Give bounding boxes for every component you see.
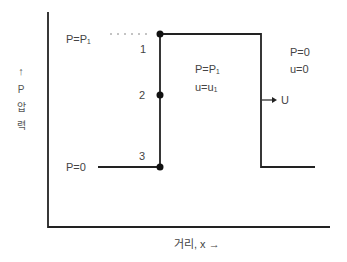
point-2-dot xyxy=(157,92,164,99)
pressure-profile-diagram xyxy=(0,0,347,262)
inside-pressure-label: P=P₁ xyxy=(195,64,220,75)
y-axis-label-char-2: 력 xyxy=(14,121,28,131)
ahead-pressure-label: P=0 xyxy=(290,47,310,58)
low-level-label: P=0 xyxy=(66,162,86,173)
high-level-label: P=P₁ xyxy=(66,34,91,45)
point-3-dot xyxy=(157,164,164,171)
inside-velocity-label: u=u₁ xyxy=(195,82,217,93)
x-axis-label: 거리, x → xyxy=(174,239,220,250)
front-velocity-label: U xyxy=(281,95,289,106)
point-1-dot xyxy=(157,31,164,38)
point-3-label: 3 xyxy=(139,151,145,162)
y-axis-label-char-1: 압 xyxy=(14,103,28,113)
velocity-arrow-head xyxy=(272,97,277,103)
y-axis-symbol: P xyxy=(14,85,28,95)
ahead-velocity-label: u=0 xyxy=(290,64,309,75)
y-axis-arrow: ↑ xyxy=(14,66,28,77)
point-2-label: 2 xyxy=(139,90,145,101)
point-1-label: 1 xyxy=(140,44,146,55)
